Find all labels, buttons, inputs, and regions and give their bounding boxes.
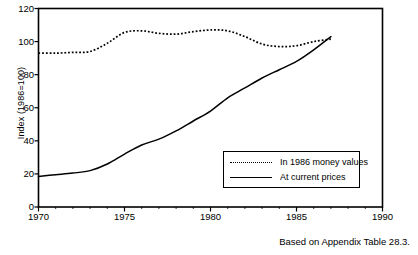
x-axis-tick-label: 1975	[101, 212, 149, 222]
figure: Index (1986=100) 020406080100120 1970197…	[0, 0, 418, 255]
x-axis-tick-label: 1990	[359, 212, 407, 222]
legend-swatch-dotted-line	[230, 162, 272, 165]
y-axis-tick-label: 60	[0, 103, 34, 113]
y-axis-tick-label: 40	[0, 136, 34, 146]
legend-swatch-solid-line	[230, 177, 272, 180]
legend-item-at-current-prices: At current prices	[224, 171, 361, 185]
y-axis-tick-label: 120	[0, 4, 34, 14]
figure-caption: Based on Appendix Table 28.3.	[0, 236, 410, 247]
legend-item-in-1986-money-values: In 1986 money values	[224, 156, 361, 170]
x-axis-tick-label: 1985	[273, 212, 321, 222]
y-axis-tick-label: 20	[0, 169, 34, 179]
x-axis-tick-label: 1980	[187, 212, 235, 222]
x-axis-tick-labels: 19701975198019851990	[0, 212, 418, 226]
legend-label: At current prices	[280, 171, 346, 184]
x-axis-tick-label: 1970	[15, 212, 63, 222]
y-axis-tick-label: 80	[0, 70, 34, 80]
chart-legend: In 1986 money values At current prices	[223, 151, 360, 188]
legend-label: In 1986 money values	[280, 156, 368, 169]
y-axis-tick-label: 100	[0, 37, 34, 47]
